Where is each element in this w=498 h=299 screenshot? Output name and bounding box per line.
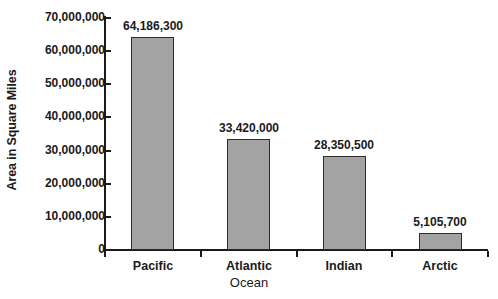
x-axis-category-label: Atlantic [199, 259, 299, 273]
y-axis-tick [106, 17, 111, 19]
bar-value-label: 5,105,700 [390, 215, 490, 229]
y-axis-tick [106, 216, 111, 218]
bar-atlantic[interactable] [227, 139, 270, 250]
x-axis-tick [487, 251, 489, 257]
plot-area: 64,186,300Pacific33,420,000Atlantic28,35… [0, 0, 498, 299]
x-axis-tick [296, 251, 298, 257]
x-axis-category-label: Indian [294, 259, 394, 273]
bar-value-label: 28,350,500 [294, 138, 394, 152]
bar-pacific[interactable] [131, 37, 174, 250]
x-axis-category-label: Arctic [390, 259, 490, 273]
x-axis-category-label: Pacific [103, 259, 203, 273]
y-axis-tick [106, 50, 111, 52]
bar-chart: Area in Square Miles 010,000,00020,000,0… [0, 0, 498, 299]
x-axis-tick [391, 251, 393, 257]
bar-value-label: 33,420,000 [199, 121, 299, 135]
bar-value-label: 64,186,300 [103, 19, 203, 33]
y-axis-tick [106, 83, 111, 85]
x-axis-tick [200, 251, 202, 257]
y-axis-tick [106, 183, 111, 185]
x-axis-tick [104, 251, 106, 257]
y-axis-tick [106, 249, 111, 251]
y-axis-tick [106, 150, 111, 152]
x-axis-title: Ocean [0, 275, 498, 290]
y-axis-tick [106, 116, 111, 118]
bar-indian[interactable] [323, 156, 366, 250]
bar-arctic[interactable] [419, 233, 462, 250]
x-axis-title-text: Ocean [230, 275, 268, 290]
